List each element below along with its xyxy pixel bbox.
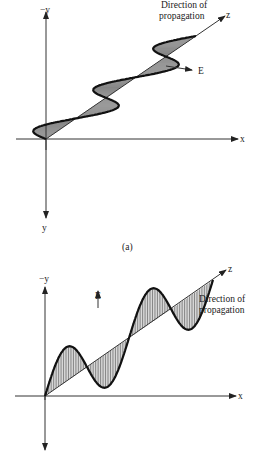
z-label-b: z (228, 264, 232, 274)
neg-y-label-b: −y (39, 274, 49, 284)
figure-b: −y x z E Direction of propagation (15, 264, 246, 450)
polarization-diagram: −y y x z E Direction of propagation (a) … (0, 0, 260, 452)
figure-a: −y y x z E Direction of propagation (a) (16, 0, 245, 253)
direction-label-b-line2: propagation (199, 305, 245, 315)
direction-label-b-line1: Direction of (199, 294, 246, 304)
caption-a: (a) (122, 242, 133, 253)
e-label-a: E (198, 66, 204, 76)
e-label-b: E (95, 291, 101, 301)
z-label-a: z (226, 10, 230, 20)
x-label-a: x (240, 134, 245, 144)
wave-a (33, 36, 196, 139)
neg-y-label-a: −y (40, 5, 50, 15)
direction-label-a-line2: propagation (159, 11, 205, 21)
x-label-b: x (238, 391, 243, 401)
wave-b (45, 280, 213, 396)
direction-label-a-line1: Direction of (161, 0, 208, 10)
y-label-a: y (42, 223, 47, 233)
